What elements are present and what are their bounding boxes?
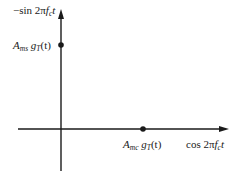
vertical-arrow-icon <box>58 9 64 19</box>
label-sub: ms <box>20 44 28 53</box>
label-text: −sin 2π <box>13 4 46 16</box>
horizontal-arrow-icon <box>219 126 229 132</box>
point-ms <box>58 42 64 48</box>
label-text: (t) <box>151 138 161 150</box>
point-ms-label: Ams gT(t) <box>13 40 51 53</box>
label-text: cos 2π <box>186 138 214 150</box>
horizontal-axis-label: cos 2πfct <box>186 139 224 152</box>
label-text: A <box>123 138 130 150</box>
label-text: t <box>221 138 224 150</box>
label-text: t <box>52 4 55 16</box>
vertical-axis-label: −sin 2πfct <box>13 5 55 18</box>
label-text: (t) <box>41 39 51 51</box>
label-text: A <box>13 39 20 51</box>
point-mc-label: Amc gT(t) <box>123 139 161 152</box>
point-mc <box>140 126 146 132</box>
label-sub: mc <box>130 143 139 152</box>
